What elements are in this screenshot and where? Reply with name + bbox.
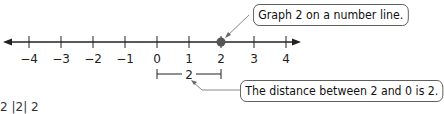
tick-label: 2: [217, 52, 225, 66]
tick-label: 1: [185, 52, 193, 66]
distance-callout: The distance between 2 and 0 is 2.: [240, 80, 444, 102]
left-arrow-icon: [3, 39, 12, 46]
tick-label: 4: [282, 52, 290, 66]
plotted-point: [217, 38, 226, 47]
distance-pointer-line: [193, 82, 240, 90]
tick-label: −4: [20, 52, 38, 66]
tick-label: −3: [52, 52, 70, 66]
right-arrow-icon: [292, 39, 301, 46]
tick-label: 0: [153, 52, 161, 66]
tick-label: 3: [250, 52, 258, 66]
graph-callout: Graph 2 on a number line.: [253, 4, 409, 26]
partial-equation-text: 2 |2| 2: [0, 100, 39, 114]
tick-label: −2: [84, 52, 102, 66]
tick-label: −1: [116, 52, 134, 66]
distance-label: 2: [185, 68, 193, 82]
